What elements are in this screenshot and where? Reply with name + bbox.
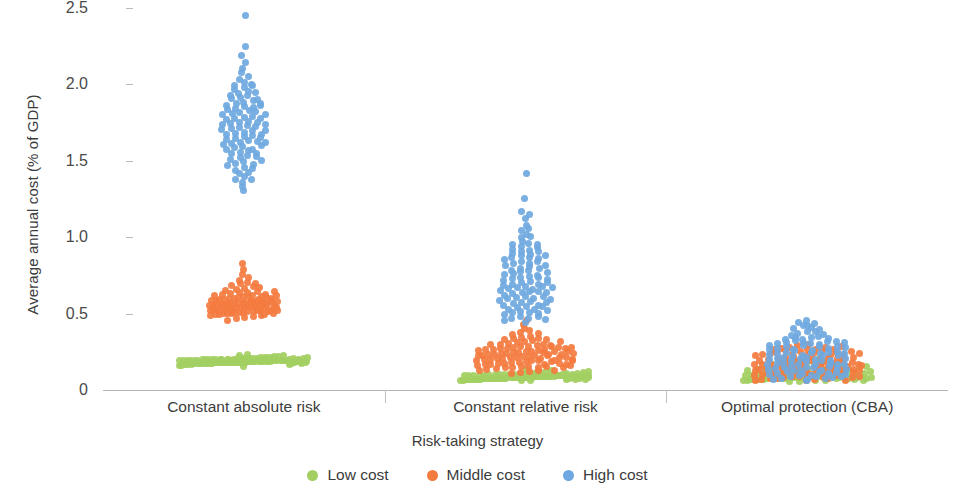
legend-label: Middle cost	[447, 466, 525, 484]
data-point	[535, 255, 542, 262]
data-point	[568, 344, 575, 351]
data-point	[856, 350, 863, 357]
data-point	[795, 319, 802, 326]
data-point	[304, 354, 311, 361]
data-point	[254, 119, 261, 126]
legend-swatch-dot-icon	[307, 470, 318, 481]
data-point	[816, 341, 823, 348]
data-point	[224, 162, 231, 169]
data-point	[537, 355, 544, 362]
x-category-label: Constant absolute risk	[167, 398, 320, 416]
y-axis-ticks: 00.51.01.52.02.5	[30, 0, 88, 492]
scatter-chart-figure: Average annual cost (% of GDP) 00.51.01.…	[0, 0, 955, 492]
data-point	[809, 347, 816, 354]
data-point	[232, 167, 239, 174]
x-axis-line	[103, 390, 948, 391]
y-tick-label: 0.5	[44, 305, 88, 323]
data-point	[752, 352, 759, 359]
data-point	[539, 283, 546, 290]
data-point	[530, 295, 537, 302]
data-point	[236, 352, 243, 359]
data-point	[519, 289, 526, 296]
legend-label: High cost	[583, 466, 648, 484]
data-point	[795, 361, 802, 368]
legend-item[interactable]: Middle cost	[427, 466, 525, 484]
data-point	[567, 362, 574, 369]
data-point	[825, 345, 832, 352]
data-point	[535, 330, 542, 337]
data-point	[242, 12, 249, 19]
data-point	[262, 139, 269, 146]
data-point	[799, 336, 806, 343]
x-axis-title: Risk-taking strategy	[0, 432, 955, 449]
data-point	[544, 307, 551, 314]
data-point	[253, 150, 260, 157]
data-point	[242, 43, 249, 50]
y-tick-label: 1.0	[44, 228, 88, 246]
data-point	[249, 165, 256, 172]
plot-area	[103, 8, 948, 390]
data-point	[250, 104, 257, 111]
data-point	[245, 274, 252, 281]
data-point	[257, 102, 264, 109]
y-tick-label: 2.5	[44, 0, 88, 17]
data-point	[518, 258, 525, 265]
data-point	[475, 347, 482, 354]
data-point	[501, 317, 508, 324]
data-point	[244, 351, 251, 358]
data-point	[228, 282, 235, 289]
data-point	[525, 315, 532, 322]
data-point	[542, 252, 549, 259]
y-tick-label: 0	[44, 381, 88, 399]
data-point	[544, 269, 551, 276]
data-point	[534, 272, 541, 279]
y-tick-label: 1.5	[44, 152, 88, 170]
data-point	[827, 357, 834, 364]
data-point	[501, 256, 508, 263]
data-point	[523, 170, 530, 177]
data-point	[525, 225, 532, 232]
data-point	[258, 157, 265, 164]
data-point	[551, 367, 558, 374]
data-point	[544, 276, 551, 283]
x-axis-category-labels: Constant absolute riskConstant relative …	[103, 398, 948, 422]
data-point	[211, 292, 218, 299]
data-point	[547, 342, 554, 349]
data-point	[262, 111, 269, 118]
data-point	[807, 340, 814, 347]
data-point	[223, 102, 230, 109]
data-point	[542, 262, 549, 269]
data-point	[242, 59, 249, 66]
legend-item[interactable]: High cost	[563, 466, 648, 484]
data-point	[501, 271, 508, 278]
data-point	[274, 298, 281, 305]
y-tick-label: 2.0	[44, 75, 88, 93]
data-point	[527, 233, 534, 240]
data-point	[557, 338, 564, 345]
data-point	[509, 241, 516, 248]
x-category-label: Constant relative risk	[453, 398, 598, 416]
data-point	[508, 267, 515, 274]
legend-item[interactable]: Low cost	[307, 466, 388, 484]
data-point	[526, 211, 533, 218]
chart-legend: Low costMiddle costHigh cost	[0, 466, 955, 484]
data-point	[535, 248, 542, 255]
data-point	[569, 356, 576, 363]
data-point	[510, 300, 517, 307]
data-point	[239, 179, 246, 186]
legend-swatch-dot-icon	[427, 470, 438, 481]
data-point	[517, 265, 524, 272]
data-point	[252, 280, 259, 287]
data-point	[248, 176, 255, 183]
data-point	[273, 292, 280, 299]
data-point	[245, 73, 252, 80]
data-point	[525, 240, 532, 247]
data-point	[549, 284, 556, 291]
data-point	[262, 121, 269, 128]
data-point	[542, 316, 549, 323]
data-point	[790, 346, 797, 353]
legend-label: Low cost	[327, 466, 388, 484]
data-point	[812, 356, 819, 363]
data-point	[231, 82, 238, 89]
x-category-label: Optimal protection (CBA)	[721, 398, 893, 416]
